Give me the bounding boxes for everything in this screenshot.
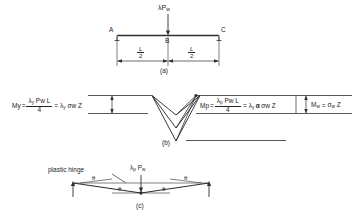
- eq-my-lhs: My: [12, 102, 21, 109]
- panel-c-theta-lower-left: θ: [118, 186, 121, 192]
- caption-a: (a): [160, 68, 168, 75]
- panel-c-hinge-leader: [112, 174, 126, 183]
- panel-b-equation-mw: Mw = σw Z: [311, 101, 341, 109]
- panel-b-equation-mp: Mp = λp Pw L 4 = λy α σw Z: [200, 98, 276, 114]
- panel-a-node-a-label: A: [109, 27, 113, 34]
- caption-c: (c): [136, 203, 144, 210]
- panel-b-apex-marker: [194, 94, 197, 97]
- panel-a-dim-left-label: L 2: [137, 46, 144, 60]
- panel-a-dim-right-label: L 2: [188, 46, 195, 60]
- panel-a-dim-left: [117, 59, 168, 63]
- panel-c-load-arrow: [139, 175, 143, 193]
- panel-a-node-c-label: C: [221, 27, 226, 34]
- panel-a-load-arrow: [166, 14, 170, 36]
- panel-c-theta-upper-left: θ: [92, 175, 95, 181]
- panel-a-load-label: λPw: [158, 4, 170, 12]
- panel-c-plastic-hinge-label: plastic hinge: [48, 167, 84, 174]
- panel-c-theta-upper-right: θ: [184, 175, 187, 181]
- panel-a-dim-right: [168, 59, 219, 63]
- panel-b-baselines-left: [88, 96, 152, 114]
- panel-c-theta-lower-right: θ: [162, 186, 165, 192]
- panel-a-node-b-label: B: [165, 38, 169, 45]
- figure-canvas: λPw A B C L 2 L 2 (a) My = λy Pw L 4 = λ…: [0, 0, 352, 217]
- panel-c-load-label: λp Pw: [130, 165, 145, 173]
- panel-b-equation-my: My = λy Pw L 4 = λy σw Z: [12, 98, 82, 114]
- panel-b-fan-lines: [176, 96, 196, 142]
- caption-b: (b): [162, 140, 170, 147]
- eq-mp-lhs: Mp: [200, 102, 209, 109]
- panel-b-dim-right-vertical: [304, 96, 307, 114]
- panel-b-dim-left-vertical: [110, 96, 113, 114]
- eq-mp-alpha: α: [254, 102, 261, 109]
